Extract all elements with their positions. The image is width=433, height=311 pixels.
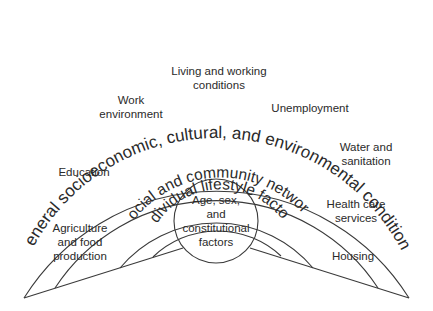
base-line-right	[250, 248, 409, 298]
svg-text:Education: Education	[58, 166, 109, 178]
svg-text:and: and	[206, 208, 225, 220]
factor-work-environment: Work environment	[99, 94, 163, 120]
factor-living-working-conditions: Living and working conditions	[171, 65, 266, 91]
factor-water-sanitation: Water and sanitation	[340, 141, 393, 167]
svg-text:Agriculture: Agriculture	[53, 222, 108, 234]
svg-text:Work: Work	[118, 94, 145, 106]
svg-text:and food: and food	[58, 236, 103, 248]
svg-text:Health care: Health care	[327, 198, 386, 210]
svg-text:Housing: Housing	[332, 250, 374, 262]
svg-text:Unemployment: Unemployment	[271, 102, 349, 114]
svg-text:environment: environment	[99, 108, 163, 120]
determinants-of-health-diagram: General socioeconomic, cultural, and env…	[0, 0, 433, 311]
svg-text:production: production	[53, 250, 107, 262]
svg-text:conditions: conditions	[193, 79, 245, 91]
svg-text:services: services	[335, 212, 377, 224]
svg-text:Water and: Water and	[340, 141, 393, 153]
factor-housing: Housing	[332, 250, 374, 262]
svg-text:constitutional: constitutional	[182, 222, 249, 234]
svg-text:factors: factors	[199, 236, 234, 248]
svg-text:Living and working: Living and working	[171, 65, 266, 77]
svg-text:sanitation: sanitation	[341, 155, 390, 167]
factor-agriculture-food-production: Agriculture and food production	[53, 222, 108, 262]
factor-unemployment: Unemployment	[271, 102, 349, 114]
svg-text:Age, sex,: Age, sex,	[192, 194, 240, 206]
factor-education: Education	[58, 166, 109, 178]
core-label: Age, sex, and constitutional factors	[182, 194, 249, 248]
